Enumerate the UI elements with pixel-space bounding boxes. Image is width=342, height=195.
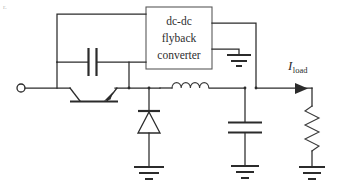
load-current-symbol: I — [288, 58, 292, 73]
load-current-subscript: load — [293, 65, 308, 75]
junction-dot-diode-node — [148, 87, 151, 90]
junction-dot-output-node — [244, 87, 247, 90]
converter-label-line2: flyback — [162, 32, 197, 45]
converter-label-line3: converter — [157, 49, 201, 61]
input-terminal-circle — [17, 84, 25, 92]
converter-label-line1: dc-dc — [166, 15, 192, 27]
transistor-collector-lead — [70, 88, 80, 101]
junction-dot-converter-feed — [255, 87, 258, 90]
schematic-canvas: r. dc-dc flyback converter — [0, 0, 342, 195]
load-current-arrow-icon — [295, 83, 308, 94]
diode-triangle-icon — [138, 112, 160, 133]
wire-converter-top-left — [57, 14, 146, 62]
circuit-schematic: dc-dc flyback converter — [0, 0, 342, 195]
load-resistor-zigzag-icon — [305, 106, 319, 151]
junction-dot-switch-node — [128, 87, 131, 90]
inductor-coil-icon — [172, 83, 209, 88]
transistor-emitter-arrow — [104, 92, 113, 101]
load-current-label: Iload — [288, 59, 307, 72]
